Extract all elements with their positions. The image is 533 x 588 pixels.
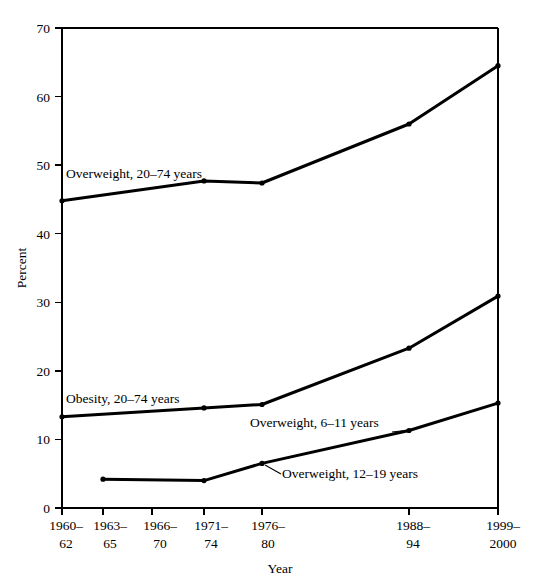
y-tick-label-70: 70 — [37, 21, 51, 36]
x-tick-label-1-top: 1963– — [93, 518, 127, 533]
annotation-obesity-20-74: Obesity, 20–74 years — [66, 391, 179, 406]
data-point-0-2 — [259, 180, 264, 185]
x-tick-label-3-bottom: 74 — [204, 536, 218, 551]
leader-line-overweight-12-19 — [265, 465, 281, 474]
annotation-overweight-6-11: Overweight, 6–11 years — [250, 415, 379, 430]
x-tick-label-0-bottom: 62 — [59, 536, 73, 551]
data-point-2-0 — [100, 477, 105, 482]
y-tick-label-30: 30 — [37, 295, 51, 310]
x-tick-label-6-top: 1999– — [486, 518, 520, 533]
x-tick-label-2-bottom: 70 — [153, 536, 167, 551]
x-axis-ticks — [62, 508, 498, 515]
y-tick-label-50: 50 — [37, 158, 51, 173]
x-tick-label-5-top: 1988– — [396, 518, 430, 533]
x-tick-label-6-bottom: 2000 — [490, 536, 517, 551]
data-point-2-2 — [259, 461, 264, 466]
annotation-overweight-20-74: Overweight, 20–74 years — [66, 166, 202, 181]
x-tick-label-4-bottom: 80 — [261, 536, 275, 551]
x-axis-title: Year — [268, 561, 293, 576]
data-point-1-2 — [259, 402, 264, 407]
data-point-0-3 — [406, 121, 411, 126]
y-tick-label-20: 20 — [37, 364, 51, 379]
data-point-1-1 — [201, 405, 206, 410]
x-tick-label-4-top: 1976– — [251, 518, 285, 533]
x-tick-label-2-top: 1966– — [143, 518, 177, 533]
x-tick-label-3-top: 1971– — [194, 518, 228, 533]
data-point-2-4 — [495, 401, 500, 406]
data-point-1-3 — [406, 346, 411, 351]
y-tick-label-10: 10 — [37, 432, 51, 447]
y-tick-label-40: 40 — [37, 227, 51, 242]
line-chart-canvas: 0 10 20 30 40 50 60 70 Percent 1960– 62 … — [0, 0, 533, 588]
x-tick-label-1-bottom: 65 — [103, 536, 117, 551]
data-point-2-1 — [201, 478, 206, 483]
annotation-overweight-12-19: Overweight, 12–19 years — [282, 466, 418, 481]
data-point-1-4 — [495, 294, 500, 299]
data-point-0-1 — [201, 178, 206, 183]
y-tick-label-60: 60 — [37, 90, 51, 105]
data-point-0-4 — [495, 63, 500, 68]
y-axis-title: Percent — [14, 248, 29, 289]
y-tick-label-0: 0 — [43, 501, 50, 516]
x-tick-label-0-top: 1960– — [49, 518, 83, 533]
data-point-0-0 — [59, 198, 64, 203]
data-point-1-0 — [59, 414, 64, 419]
y-axis-ticks — [55, 28, 62, 508]
x-tick-label-5-bottom: 94 — [406, 536, 420, 551]
chart-figure: 0 10 20 30 40 50 60 70 Percent 1960– 62 … — [0, 0, 533, 588]
